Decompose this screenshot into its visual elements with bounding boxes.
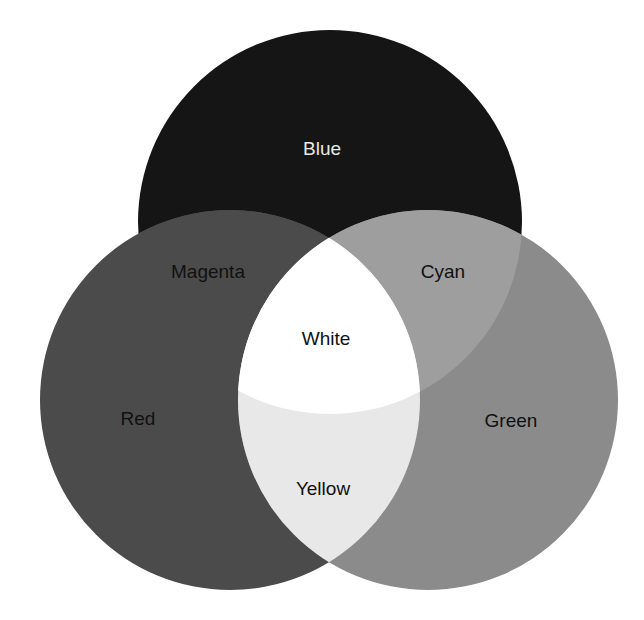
label-magenta: Magenta <box>171 261 245 282</box>
label-white: White <box>302 328 351 349</box>
label-red: Red <box>121 408 156 429</box>
label-green: Green <box>485 410 538 431</box>
label-cyan: Cyan <box>421 261 465 282</box>
label-blue: Blue <box>303 138 341 159</box>
label-yellow: Yellow <box>296 478 351 499</box>
color-venn-diagram: Blue Red Green Magenta Cyan Yellow White <box>0 0 644 620</box>
